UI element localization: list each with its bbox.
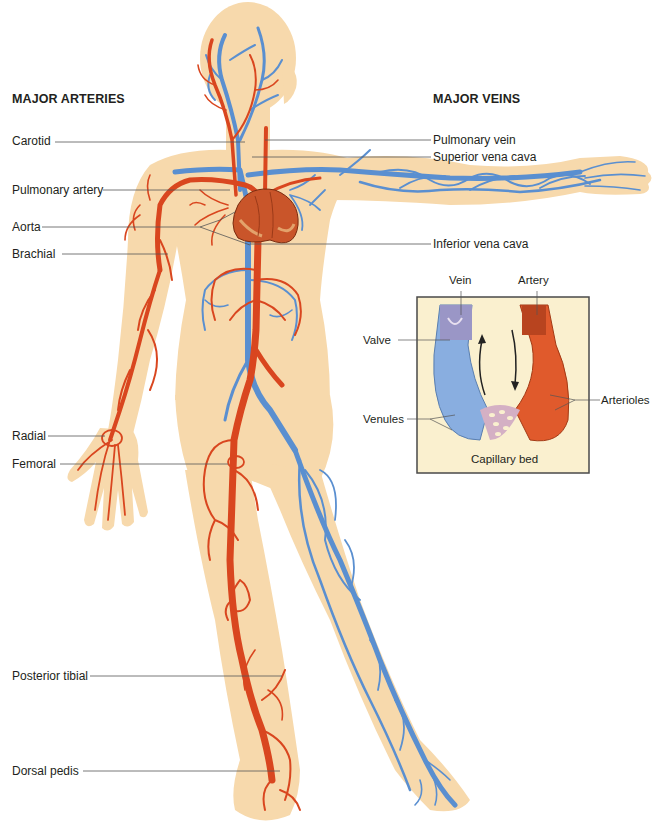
major-arteries-heading: MAJOR ARTERIES	[12, 92, 125, 106]
label-pulmonary-vein: Pulmonary vein	[433, 133, 516, 147]
capillary-bed-inset	[398, 291, 600, 473]
label-femoral: Femoral	[12, 457, 56, 471]
label-inferior-vena-cava: Inferior vena cava	[433, 237, 528, 251]
inset-label-capillary-bed: Capillary bed	[471, 452, 538, 466]
major-veins-heading: MAJOR VEINS	[433, 92, 520, 106]
inset-label-venules: Venules	[363, 412, 404, 426]
label-superior-vena-cava: Superior vena cava	[433, 150, 536, 164]
label-posterior-tibial: Posterior tibial	[12, 669, 88, 683]
inset-label-arterioles: Arterioles	[601, 393, 650, 407]
label-aorta: Aorta	[12, 220, 41, 234]
label-pulmonary-artery: Pulmonary artery	[12, 183, 103, 197]
label-dorsal-pedis: Dorsal pedis	[12, 764, 79, 778]
circulatory-system-illustration	[0, 0, 661, 831]
label-carotid: Carotid	[12, 134, 51, 148]
label-radial: Radial	[12, 429, 46, 443]
label-brachial: Brachial	[12, 247, 55, 261]
inset-label-artery: Artery	[518, 273, 549, 287]
inset-label-vein: Vein	[449, 273, 471, 287]
inset-label-valve: Valve	[363, 333, 391, 347]
